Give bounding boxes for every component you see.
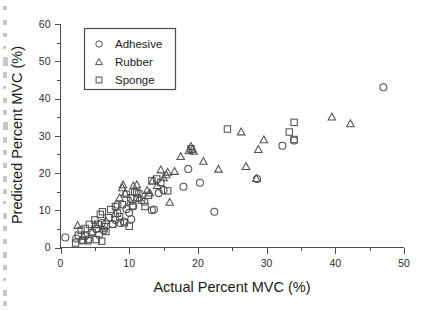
data-point bbox=[224, 126, 230, 132]
x-axis-title: Actual Percent MVC (%) bbox=[153, 279, 310, 295]
data-point bbox=[157, 166, 165, 173]
y-tick-label: 10 bbox=[39, 204, 51, 216]
data-point bbox=[286, 129, 292, 135]
y-axis-title: Predicted Percent MVC (%) bbox=[9, 46, 25, 224]
y-axis-tick-labels: 0102030405060 bbox=[39, 18, 51, 254]
series-adhesive bbox=[62, 84, 387, 244]
data-points-layer bbox=[62, 84, 387, 246]
data-point bbox=[180, 183, 187, 190]
data-point bbox=[255, 146, 263, 153]
x-tick-label: 40 bbox=[329, 257, 341, 269]
y-tick-label: 50 bbox=[39, 55, 51, 67]
data-point bbox=[185, 165, 192, 172]
data-point bbox=[237, 128, 245, 135]
data-point bbox=[347, 120, 355, 127]
y-tick-label: 30 bbox=[39, 130, 51, 142]
data-point bbox=[242, 163, 250, 170]
data-point bbox=[196, 179, 203, 186]
legend-label-adhesive: Adhesive bbox=[115, 38, 162, 50]
y-tick-label: 40 bbox=[39, 92, 51, 104]
y-tick-label: 0 bbox=[45, 241, 51, 253]
data-point bbox=[177, 153, 185, 160]
x-axis-ticks bbox=[62, 248, 405, 254]
y-tick-label: 60 bbox=[39, 18, 51, 30]
x-tick-label: 10 bbox=[123, 257, 135, 269]
data-point bbox=[128, 216, 135, 223]
data-point bbox=[260, 136, 268, 143]
data-point bbox=[380, 84, 387, 91]
y-tick-label: 20 bbox=[39, 167, 51, 179]
data-point bbox=[215, 165, 223, 172]
scatter-plot: 01020304050 0102030405060 Actual Percent… bbox=[0, 0, 422, 310]
data-point bbox=[279, 142, 286, 149]
legend-label-sponge: Sponge bbox=[115, 74, 155, 86]
x-axis-tick-labels: 01020304050 bbox=[58, 257, 410, 269]
x-tick-label: 20 bbox=[192, 257, 204, 269]
data-point bbox=[82, 225, 88, 231]
data-point bbox=[99, 209, 105, 215]
data-point bbox=[200, 157, 208, 164]
figure-page: 01020304050 0102030405060 Actual Percent… bbox=[0, 0, 422, 310]
x-tick-label: 30 bbox=[261, 257, 273, 269]
data-point bbox=[114, 201, 121, 208]
data-point bbox=[62, 234, 69, 241]
data-point bbox=[291, 119, 297, 125]
data-point bbox=[328, 113, 336, 120]
x-tick-label: 50 bbox=[398, 257, 410, 269]
x-tick-label: 0 bbox=[58, 257, 64, 269]
data-point bbox=[166, 198, 174, 205]
legend: AdhesiveRubberSponge bbox=[85, 29, 176, 90]
y-axis-ticks bbox=[55, 25, 61, 249]
data-point bbox=[171, 168, 179, 175]
legend-label-rubber: Rubber bbox=[115, 56, 153, 68]
data-point bbox=[211, 208, 218, 215]
